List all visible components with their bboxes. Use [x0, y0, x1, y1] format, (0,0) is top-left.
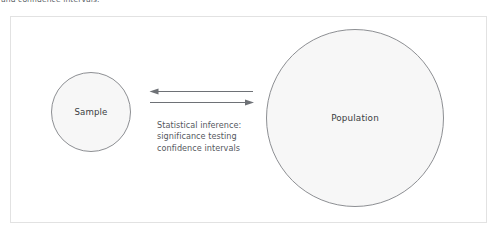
inference-note: Statistical inference: significance test… — [157, 120, 267, 154]
inference-arrows — [148, 86, 256, 110]
inference-note-line-3: confidence intervals — [157, 143, 267, 154]
diagram-stage: Sample Population Statistical inference:… — [0, 0, 499, 231]
arrow-pointing-to-population — [150, 99, 254, 105]
inference-note-line-1: Statistical inference: — [157, 120, 267, 131]
sample-circle-label: Sample — [74, 107, 107, 117]
inference-note-line-2: significance testing — [157, 131, 267, 142]
population-circle-label: Population — [331, 113, 379, 123]
arrow-pointing-to-sample — [150, 88, 254, 94]
sample-circle: Sample — [51, 72, 131, 152]
population-circle: Population — [266, 29, 444, 207]
